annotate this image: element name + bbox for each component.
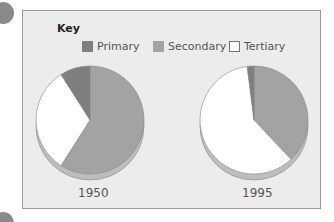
year-label-1950: 1950 xyxy=(78,186,109,200)
pie-charts xyxy=(0,0,334,222)
pie-1950 xyxy=(36,66,144,180)
pie-1995 xyxy=(200,66,308,180)
year-label-1995: 1995 xyxy=(242,186,273,200)
